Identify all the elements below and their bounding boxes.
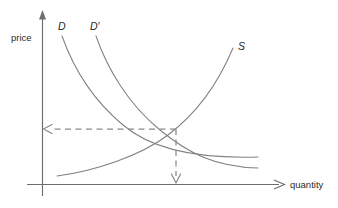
x-axis-label: quantity — [290, 179, 324, 190]
supply-demand-figure: price quantity D D′ S — [0, 0, 338, 208]
demand-shifted-curve-label: D′ — [90, 20, 101, 32]
y-axis-arrow-icon — [39, 10, 46, 20]
axes-group — [27, 10, 285, 196]
demand-curve — [62, 36, 258, 157]
demand-curve-shifted — [96, 36, 258, 168]
y-axis-label: price — [11, 32, 32, 43]
labels-group: price quantity D D′ S — [11, 20, 324, 190]
supply-curve — [57, 48, 233, 176]
annotation-group — [44, 125, 181, 184]
curves-group — [57, 36, 258, 176]
demand-curve-label: D — [58, 20, 66, 32]
supply-demand-chart: price quantity D D′ S — [0, 0, 338, 208]
equilibrium-price-guide-arrow-icon — [44, 125, 53, 134]
supply-curve-label: S — [238, 40, 245, 52]
